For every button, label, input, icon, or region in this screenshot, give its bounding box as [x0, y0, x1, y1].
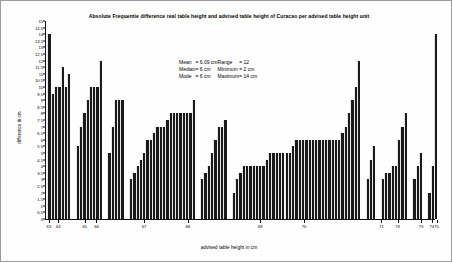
statistics-cell: = 2 cm [239, 66, 257, 73]
y-axis-tick-label: 9 [19, 98, 45, 103]
statistics-cell: Maximum [218, 73, 240, 80]
y-axis-tick-label: 4 [19, 164, 45, 169]
y-axis-tick-label: 2 [19, 190, 45, 195]
bar [404, 113, 407, 219]
bar [357, 61, 360, 219]
x-axis-tick-mark [398, 220, 399, 223]
bar [120, 100, 123, 219]
bar [419, 153, 422, 219]
statistics-table: Mean= 6.09 cmRange= 12Median= 6 cmMinimu… [179, 59, 257, 81]
y-axis-tick-label: 1 [19, 203, 45, 208]
statistics-cell: Mode [179, 73, 195, 80]
x-axis-tick-mark [432, 220, 433, 223]
y-axis-tick-label: 8.5 [19, 104, 45, 109]
y-axis-tick-label: 9.5 [19, 91, 45, 96]
y-axis-tick-label: 6 [19, 137, 45, 142]
chart-container: Absolute Frequentie difference real tabl… [0, 0, 452, 262]
y-axis-tick-label: 3.5 [19, 170, 45, 175]
y-axis-tick-label: 5.5 [19, 144, 45, 149]
y-axis-tick-label: 11 [19, 71, 45, 76]
statistics-row: Median= 6 cmMinimum= 2 cm [179, 66, 257, 73]
x-axis-tick-label: 71 [379, 224, 384, 229]
y-axis-tick-label: 13.5 [19, 38, 45, 43]
x-axis-tick-label: 69 [258, 224, 263, 229]
y-axis-tick-label: 2.5 [19, 184, 45, 189]
statistics-cell: = 12 [239, 59, 257, 66]
bar [434, 34, 437, 219]
chart-title: Absolute Frequentie difference real tabl… [61, 12, 397, 20]
x-axis-tick-mark [85, 220, 86, 223]
y-axis-tick-label: 12 [19, 58, 45, 63]
statistics-box: Mean= 6.09 cmRange= 12Median= 6 cmMinimu… [179, 59, 257, 81]
bar [67, 74, 70, 219]
x-axis-tick-label: 67 [142, 224, 147, 229]
x-axis-tick-mark [421, 220, 422, 223]
y-axis-tick-label: 11.5 [19, 65, 45, 70]
statistics-row: Mode= 6 cmMaximum= 14 cm [179, 73, 257, 80]
y-axis-tick-label: 13 [19, 45, 45, 50]
y-axis-tick-label: 6.5 [19, 131, 45, 136]
bar [372, 146, 375, 219]
x-axis-tick-mark [49, 220, 50, 223]
bar [192, 100, 195, 219]
y-axis-tick-label: 12.5 [19, 52, 45, 57]
x-axis-tick-mark [144, 220, 145, 223]
x-axis-tick-label: 65 [82, 224, 87, 229]
y-axis-tick-label: 14 [19, 32, 45, 37]
y-axis-tick-label: 10.5 [19, 78, 45, 83]
x-axis-tick-label: 63 [47, 224, 52, 229]
statistics-row: Mean= 6.09 cmRange= 12 [179, 59, 257, 66]
x-axis-tick-label: 75 [434, 224, 439, 229]
x-axis-tick-mark [304, 220, 305, 223]
statistics-cell: = 6 cm [195, 73, 217, 80]
statistics-cell: Range [218, 59, 240, 66]
statistics-cell: Median [179, 66, 195, 73]
y-axis-tick-label: 7 [19, 124, 45, 129]
y-axis-tick-label: 15 [19, 19, 45, 24]
x-axis-tick-label: 66 [94, 224, 99, 229]
y-axis-tick-label: 14.5 [19, 25, 45, 30]
y-axis-tick-label: 5 [19, 151, 45, 156]
statistics-cell: = 6.09 cm [195, 59, 217, 66]
x-axis-tick-mark [437, 220, 438, 223]
y-axis-tick-label: 1.5 [19, 197, 45, 202]
x-axis-tick-mark [58, 220, 59, 223]
plot-area: 1514.51413.51312.51211.51110.5109.598.58… [45, 21, 435, 220]
y-axis-tick-label: 4.5 [19, 157, 45, 162]
x-axis-tick-mark [188, 220, 189, 223]
x-axis-label: advised table height in cm [61, 245, 397, 250]
statistics-cell: Minimum [218, 66, 240, 73]
bar [99, 61, 102, 219]
y-axis-tick-label: 10 [19, 85, 45, 90]
x-axis-tick-label: 73 [419, 224, 424, 229]
y-axis-tick-label: 3 [19, 177, 45, 182]
x-axis-tick-mark [96, 220, 97, 223]
x-axis-tick-mark [381, 220, 382, 223]
x-axis-tick-label: 64 [56, 224, 61, 229]
x-axis-tick-label: 70 [302, 224, 307, 229]
y-axis-tick-label: 7.5 [19, 118, 45, 123]
x-axis-tick-label: 73 [395, 224, 400, 229]
bar [223, 120, 226, 219]
y-axis-tick-label: 0.5 [19, 210, 45, 215]
statistics-cell: = 6 cm [195, 66, 217, 73]
statistics-cell: = 14 cm [239, 73, 257, 80]
y-axis-tick-label: 8 [19, 111, 45, 116]
y-axis-tick-label: 0 [19, 217, 45, 222]
x-axis-tick-mark [260, 220, 261, 223]
statistics-cell: Mean [179, 59, 195, 66]
bars-group [45, 21, 435, 219]
x-axis-tick-label: 68 [185, 224, 190, 229]
